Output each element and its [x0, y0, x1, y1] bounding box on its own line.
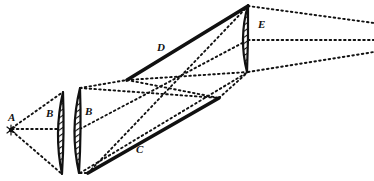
ray-a-upper	[12, 92, 63, 128]
dotted-ray-group	[12, 6, 374, 174]
label-b-right-lens: B	[85, 106, 92, 117]
lens-e	[243, 5, 248, 72]
label-c-lower-edge: C	[136, 144, 143, 155]
label-e-lens: E	[258, 19, 265, 30]
label-b-left-lens: B	[46, 108, 53, 119]
lens-b-left	[58, 92, 64, 174]
label-a-source: A	[8, 112, 15, 123]
ray-lower-c-to-e	[219, 72, 248, 98]
ray-cross-lower-left-to-upper-right	[88, 6, 248, 173]
ray-out-lower	[248, 52, 374, 72]
beam-edge-lower-c	[88, 98, 219, 173]
diagram-canvas	[0, 0, 374, 181]
ray-upper-d-to-e	[127, 72, 248, 80]
ray-out-upper	[248, 6, 374, 23]
optical-ray-diagram: ABBCDE	[0, 0, 374, 181]
ray-a-lower	[12, 131, 62, 174]
ray-upper-b-to-d	[80, 80, 127, 88]
label-d-upper-edge: D	[157, 42, 165, 53]
lens-b-right	[74, 88, 80, 173]
